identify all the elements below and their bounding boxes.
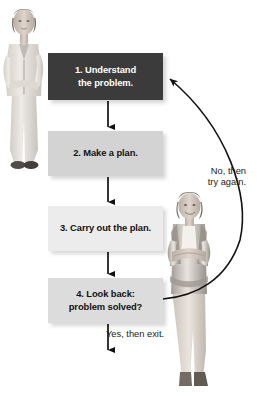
- flow-step-2: 2. Make a plan.: [48, 131, 163, 176]
- flow-step-4: 4. Look back: problem solved?: [48, 278, 163, 323]
- feedback-loop-curve: [163, 79, 242, 299]
- exit-edge-label: Yes, then exit.: [106, 329, 198, 340]
- flow-step-4-label: 4. Look back: problem solved?: [69, 288, 143, 313]
- flowchart-diagram: 1. Understand the problem. 2. Make a pla…: [0, 0, 257, 396]
- flow-step-1-label: 1. Understand the problem.: [75, 64, 136, 89]
- figure-woman-thinking: [4, 9, 44, 169]
- figure-woman-confident: [168, 192, 211, 386]
- flow-step-3: 3. Carry out the plan.: [48, 206, 163, 251]
- flow-step-1: 1. Understand the problem.: [48, 53, 163, 100]
- flow-step-2-label: 2. Make a plan.: [73, 147, 138, 159]
- flow-step-3-label: 3. Carry out the plan.: [60, 222, 151, 234]
- feedback-edge-label: No, then try again.: [178, 166, 246, 189]
